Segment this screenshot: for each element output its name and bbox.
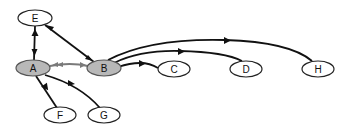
node-label: H <box>314 64 321 75</box>
edge-a-f <box>36 76 57 108</box>
node-label: F <box>57 110 63 121</box>
node-label: C <box>170 64 177 75</box>
node-b[interactable]: B <box>87 60 121 76</box>
node-h[interactable]: H <box>302 61 334 77</box>
edge-a-e <box>32 26 39 60</box>
node-f[interactable]: F <box>44 107 76 123</box>
node-label: B <box>101 63 108 74</box>
edge-e-b <box>45 25 94 62</box>
node-e[interactable]: E <box>18 10 52 26</box>
graph-diagram: E A B C D H F G <box>0 0 349 130</box>
node-label: D <box>242 64 249 75</box>
node-c[interactable]: C <box>158 61 190 77</box>
edge-b-h <box>108 37 312 61</box>
edge-a-b <box>50 62 88 68</box>
edge-b-c <box>118 60 158 68</box>
node-label: G <box>100 110 108 121</box>
node-g[interactable]: G <box>88 107 120 123</box>
node-d[interactable]: D <box>230 61 262 77</box>
node-label: A <box>30 63 37 74</box>
node-a[interactable]: A <box>16 60 50 76</box>
node-label: E <box>32 13 39 24</box>
